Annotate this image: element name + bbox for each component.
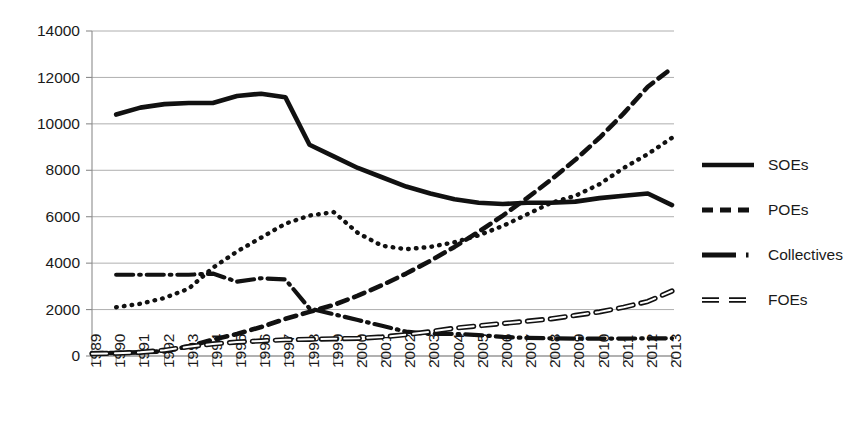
legend-item-soes[interactable]: SOEs <box>702 156 809 173</box>
legend-item-poes[interactable]: POEs <box>702 201 809 218</box>
x-tick-label: 1993 <box>184 334 201 368</box>
x-tick-label: 1989 <box>87 334 104 368</box>
legend-item-collectives[interactable]: Collectives <box>702 246 843 263</box>
line-chart: 02000400060008000100001200014000 1989199… <box>0 0 860 425</box>
y-tick-label: 0 <box>71 347 80 364</box>
series-line-poes <box>92 68 672 353</box>
x-tick-label: 2005 <box>474 334 491 368</box>
x-tick-label: 2004 <box>450 333 467 368</box>
legend-label-collectives: Collectives <box>768 246 843 263</box>
y-tick-label: 6000 <box>46 208 81 225</box>
y-tick-label: 8000 <box>46 161 81 178</box>
legend-label-soes: SOEs <box>768 156 809 173</box>
y-tick-label: 14000 <box>37 22 80 39</box>
x-tick-label: 1995 <box>232 334 249 368</box>
x-tick-label: 2003 <box>425 334 442 368</box>
x-tick-label: 2002 <box>401 334 418 368</box>
legend-label-foes: FOEs <box>768 291 808 308</box>
chart-legend: SOEsPOEsCollectivesFOEs <box>702 156 843 308</box>
y-axis-ticks <box>86 31 92 356</box>
y-tick-label: 4000 <box>46 254 81 271</box>
y-tick-label: 12000 <box>37 69 80 86</box>
chart-container: 02000400060008000100001200014000 1989199… <box>0 0 860 425</box>
data-series-group <box>92 68 672 354</box>
legend-label-poes: POEs <box>768 201 809 218</box>
y-tick-label: 10000 <box>37 115 80 132</box>
gridlines <box>92 31 674 356</box>
y-tick-label: 2000 <box>46 301 81 318</box>
series-line-collectives <box>116 274 672 339</box>
legend-item-foes[interactable]: FOEs <box>702 291 808 308</box>
y-axis-tick-labels: 02000400060008000100001200014000 <box>37 22 80 364</box>
x-tick-label: 2013 <box>667 334 684 368</box>
axes <box>92 31 674 356</box>
